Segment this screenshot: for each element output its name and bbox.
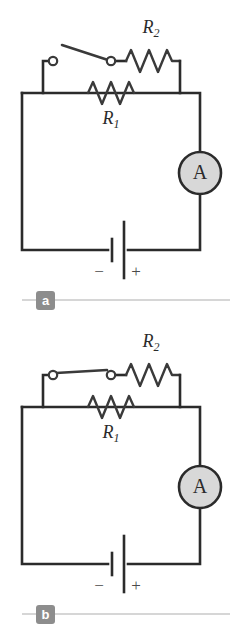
battery-positive-label-a: + [131, 262, 141, 281]
switch-terminal-right-a[interactable] [107, 57, 115, 65]
switch-blade-b[interactable] [56, 370, 107, 373]
ammeter-label-b: A [193, 475, 208, 497]
resistor-r2-zigzag-b [126, 364, 180, 386]
bottom-right-wire-b [128, 509, 200, 564]
switch-blade-a[interactable] [62, 45, 108, 60]
battery-positive-label-b: + [131, 576, 141, 595]
resistor-r2-label-a: R2 [142, 17, 160, 40]
switch-left-riser-b [43, 375, 48, 407]
switch-terminal-right-b[interactable] [107, 371, 115, 379]
switch-terminal-left-a[interactable] [49, 57, 57, 65]
ammeter-label-a: A [193, 161, 208, 183]
switch-left-riser-a [43, 61, 48, 93]
main-loop-wire-a [22, 93, 108, 250]
circuit-figure-b: A R2 R1 − + b [0, 314, 252, 628]
resistor-r2-label-b: R2 [142, 331, 160, 354]
switch-terminal-left-b[interactable] [49, 371, 57, 379]
resistor-r1-label-a: R1 [102, 108, 120, 131]
circuit-diagram-b: A R2 R1 − + [0, 314, 252, 604]
circuit-figure-a: A R2 R1 − + a [0, 0, 252, 314]
resistor-r2-zigzag-a [126, 50, 180, 72]
caption-badge-a: a [36, 291, 55, 310]
circuit-diagram-a: A R2 R1 − + [0, 0, 252, 290]
resistor-r1-label-b: R1 [102, 422, 120, 445]
battery-negative-label-b: − [94, 576, 104, 595]
caption-badge-b: b [36, 605, 55, 624]
battery-negative-label-a: − [94, 262, 104, 281]
bottom-right-wire-a [128, 195, 200, 250]
main-loop-wire-b [22, 407, 108, 564]
